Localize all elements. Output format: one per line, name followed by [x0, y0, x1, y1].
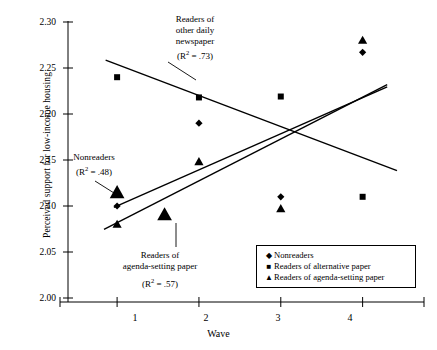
diamond-marker-icon — [114, 202, 121, 209]
data-point — [278, 94, 284, 100]
triangle-marker-icon — [194, 157, 203, 165]
data-point — [114, 202, 121, 209]
data-point — [114, 74, 120, 80]
trend-line — [104, 85, 387, 230]
data-point-markers — [110, 36, 367, 228]
annotation-leader-line — [95, 181, 114, 193]
square-marker-icon — [278, 94, 284, 100]
data-point — [194, 157, 203, 165]
plot-area — [0, 0, 437, 350]
data-point — [358, 36, 367, 44]
annotation-leader-line — [168, 62, 196, 80]
square-marker-icon — [196, 94, 202, 100]
triangle-marker-icon — [157, 207, 172, 220]
trend-lines — [104, 60, 397, 229]
diamond-marker-icon — [277, 193, 284, 200]
diamond-marker-icon — [195, 120, 202, 127]
data-point — [360, 194, 366, 200]
diamond-marker-icon — [359, 49, 366, 56]
data-point — [195, 120, 202, 127]
annotation-leader-lines — [95, 62, 196, 247]
data-point — [359, 49, 366, 56]
data-point-highlight — [157, 207, 172, 220]
data-point — [276, 204, 285, 212]
triangle-marker-icon — [358, 36, 367, 44]
square-marker-icon — [114, 74, 120, 80]
chart-container: Perceived support for low-income housing… — [0, 0, 437, 350]
square-marker-icon — [360, 194, 366, 200]
data-point — [277, 193, 284, 200]
data-point — [196, 94, 202, 100]
triangle-marker-icon — [276, 204, 285, 212]
